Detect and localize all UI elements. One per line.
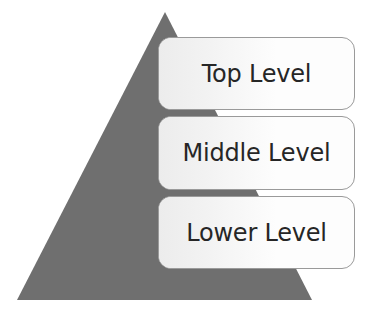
level-label-middle: Middle Level [183, 139, 331, 167]
level-box-lower[interactable]: Lower Level [158, 196, 355, 269]
level-box-top[interactable]: Top Level [158, 37, 355, 110]
pyramid-diagram: Top Level Middle Level Lower Level [0, 0, 368, 314]
level-box-middle[interactable]: Middle Level [158, 116, 355, 190]
level-label-lower: Lower Level [186, 219, 327, 247]
level-label-top: Top Level [202, 60, 312, 88]
